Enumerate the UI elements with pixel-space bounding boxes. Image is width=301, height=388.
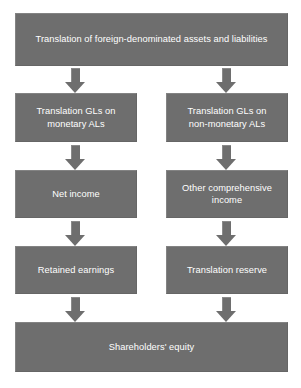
arrow-head-down-icon bbox=[216, 82, 236, 93]
node-retained-earnings: Retained earnings bbox=[15, 246, 137, 294]
arrow-retained-earnings-to-equity bbox=[65, 297, 86, 322]
node-retained-earnings-label: Retained earnings bbox=[20, 264, 132, 277]
node-translation-gls-monetary: Translation GLs on monetary ALs bbox=[15, 93, 137, 142]
arrow-oci-to-translation-reserve bbox=[216, 221, 237, 246]
arrow-root-to-right-gl bbox=[216, 68, 237, 93]
node-translation-gls-monetary-label: Translation GLs on monetary ALs bbox=[20, 105, 132, 130]
arrow-head-down-icon bbox=[65, 235, 85, 246]
node-translation-gls-non-monetary-label: Translation GLs on non-monetary ALs bbox=[171, 105, 283, 130]
arrow-shaft bbox=[222, 145, 231, 160]
arrow-head-down-icon bbox=[65, 311, 85, 322]
node-translation-root-label: Translation of foreign-denominated asset… bbox=[20, 33, 283, 46]
arrow-shaft bbox=[222, 221, 231, 236]
arrow-shaft bbox=[71, 68, 80, 83]
arrow-head-down-icon bbox=[65, 82, 85, 93]
node-translation-reserve: Translation reserve bbox=[166, 246, 288, 294]
node-shareholders-equity: Shareholders' equity bbox=[15, 322, 288, 372]
node-translation-root: Translation of foreign-denominated asset… bbox=[15, 13, 288, 66]
node-other-comprehensive-income-label: Other comprehensive income bbox=[171, 182, 283, 207]
arrow-root-to-left-gl bbox=[65, 68, 86, 93]
arrow-shaft bbox=[71, 297, 80, 312]
arrow-shaft bbox=[71, 221, 80, 236]
node-net-income: Net income bbox=[15, 170, 137, 218]
node-translation-gls-non-monetary: Translation GLs on non-monetary ALs bbox=[166, 93, 288, 142]
arrow-shaft bbox=[222, 297, 231, 312]
flowchart-canvas: Translation of foreign-denominated asset… bbox=[0, 0, 301, 388]
node-translation-reserve-label: Translation reserve bbox=[171, 264, 283, 277]
arrow-head-down-icon bbox=[65, 159, 85, 170]
node-other-comprehensive-income: Other comprehensive income bbox=[166, 170, 288, 218]
arrow-head-down-icon bbox=[216, 159, 236, 170]
arrow-translation-reserve-to-equity bbox=[216, 297, 237, 322]
arrow-left-gl-to-net-income bbox=[65, 145, 86, 170]
arrow-net-income-to-retained-earnings bbox=[65, 221, 86, 246]
arrow-right-gl-to-oci bbox=[216, 145, 237, 170]
arrow-head-down-icon bbox=[216, 235, 236, 246]
node-shareholders-equity-label: Shareholders' equity bbox=[20, 341, 283, 354]
arrow-shaft bbox=[71, 145, 80, 160]
arrow-head-down-icon bbox=[216, 311, 236, 322]
arrow-shaft bbox=[222, 68, 231, 83]
node-net-income-label: Net income bbox=[20, 188, 132, 201]
